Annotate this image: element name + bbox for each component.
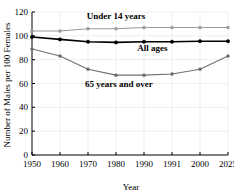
data-point xyxy=(170,40,173,43)
series-label: Under 14 years xyxy=(87,11,146,21)
y-tick-label: 40 xyxy=(19,102,29,112)
series-label: 65 years and over xyxy=(85,79,153,89)
x-tick-label: 2025 xyxy=(219,159,234,169)
y-tick-label: 120 xyxy=(15,7,29,17)
x-tick-label: 1960 xyxy=(51,159,70,169)
data-point xyxy=(199,26,202,29)
data-point xyxy=(227,26,230,29)
data-point xyxy=(58,38,61,41)
y-tick-label: 100 xyxy=(15,31,29,41)
x-tick-label: 1950 xyxy=(23,159,42,169)
data-point xyxy=(171,26,174,29)
x-tick-label: 1990 xyxy=(135,159,154,169)
y-tick-label: 20 xyxy=(19,126,29,136)
data-point xyxy=(114,41,117,44)
data-point xyxy=(227,55,230,58)
x-tick-label: 2000 xyxy=(191,159,210,169)
data-point xyxy=(59,55,62,58)
line-chart: 020406080100120 195019601970198019901991… xyxy=(0,0,234,194)
data-point xyxy=(143,26,146,29)
y-tick-label: 60 xyxy=(19,79,29,89)
data-point xyxy=(31,47,34,50)
x-tick-labels: 19501960197019801990199120002025 xyxy=(23,159,234,169)
y-tick-label: 80 xyxy=(19,55,29,65)
data-point xyxy=(171,72,174,75)
x-tick-label: 1991 xyxy=(163,159,181,169)
series-label: All ages xyxy=(137,43,168,53)
data-point xyxy=(199,68,202,71)
data-point xyxy=(87,27,90,30)
data-point xyxy=(226,39,229,42)
x-axis-title: Year xyxy=(123,182,140,192)
data-point xyxy=(143,74,146,77)
series-line xyxy=(32,49,228,75)
x-tick-label: 1970 xyxy=(79,159,98,169)
data-point xyxy=(198,39,201,42)
data-point xyxy=(30,35,33,38)
series-annotations: Under 14 yearsAll ages65 years and over xyxy=(85,11,168,89)
data-point xyxy=(115,27,118,30)
data-point xyxy=(31,30,34,33)
y-tick-labels: 020406080100120 xyxy=(15,7,29,160)
data-point xyxy=(115,74,118,77)
y-axis-title: Number of Males per 100 Females xyxy=(2,22,12,148)
data-point xyxy=(86,40,89,43)
data-point xyxy=(87,68,90,71)
x-tick-label: 1980 xyxy=(107,159,126,169)
chart-container: 020406080100120 195019601970198019901991… xyxy=(0,0,234,194)
data-point xyxy=(59,30,62,33)
